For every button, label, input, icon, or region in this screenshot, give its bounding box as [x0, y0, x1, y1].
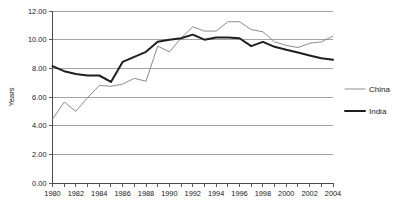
x-axis-tick-label: 1990: [161, 189, 177, 198]
series-line-india: [53, 35, 334, 82]
y-axis-tick-label: 0.00: [32, 179, 46, 188]
x-axis-tick-label: 1994: [208, 189, 224, 198]
x-axis-tick-label: 1992: [185, 189, 201, 198]
x-axis-tick-label: 2002: [301, 189, 317, 198]
x-axis-tick-label: 1988: [138, 189, 154, 198]
x-axis-tick-label: 1984: [91, 189, 107, 198]
legend-label-india: India: [369, 107, 387, 116]
y-axis-tick-label: 2.00: [32, 150, 46, 159]
x-axis-tick-label: 2000: [278, 189, 294, 198]
x-axis-tick-label: 1980: [44, 189, 60, 198]
x-axis-tick-label: 2004: [325, 189, 341, 198]
y-axis-tick-label: 6.00: [32, 93, 46, 102]
x-axis-tick-label: 1982: [68, 189, 84, 198]
x-axis-tick-label: 1996: [231, 189, 247, 198]
x-axis-tick-label: 1986: [114, 189, 130, 198]
y-axis-tick-label: 4.00: [32, 121, 46, 130]
legend-label-china: China: [369, 85, 390, 94]
y-axis-title: Years: [7, 87, 16, 106]
line-chart: 0.002.004.006.008.0010.0012.001980198219…: [0, 0, 401, 207]
y-axis-tick-label: 10.00: [28, 35, 47, 44]
y-axis-tick-label: 12.00: [28, 7, 47, 16]
chart-canvas: 0.002.004.006.008.0010.0012.001980198219…: [0, 0, 401, 207]
y-axis-tick-label: 8.00: [32, 64, 46, 73]
series-line-china: [53, 22, 334, 119]
x-axis-tick-label: 1998: [255, 189, 271, 198]
